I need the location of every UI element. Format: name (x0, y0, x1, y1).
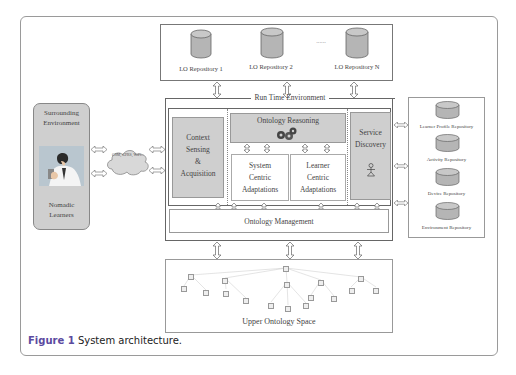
ontology-reasoning-title: Ontology Reasoning (231, 115, 345, 127)
learner-line3: Adaptations (291, 184, 345, 196)
database-icon (435, 101, 460, 119)
double-arrow-icon (264, 144, 270, 153)
ontology-tree (166, 260, 394, 310)
lo-repository-n-label: LO Repository N (329, 63, 385, 70)
service-line2: Discovery (351, 139, 390, 151)
ontology-management-label: Ontology Management (170, 216, 388, 228)
context-line2: Sensing (173, 144, 223, 156)
caption-label: Figure 1 (28, 335, 75, 346)
learners-line2: Learners (34, 210, 89, 220)
system-centric-box: System Centric Adaptations (231, 154, 289, 201)
runtime-environment-title: Run Time Environment (251, 92, 329, 104)
figure-caption: Figure 1 System architecture. (28, 335, 182, 346)
environment-repository-label: Environment Repository (409, 225, 484, 230)
database-icon (435, 134, 460, 152)
double-arrow-icon (213, 242, 221, 259)
ontology-management-box: Ontology Management (169, 209, 389, 233)
activity-repository-label: Activity Repository (409, 157, 484, 162)
side-repositories-box: Learner Profile Repository Activity Repo… (408, 97, 485, 238)
learner-centric-box: Learner Centric Adaptations (290, 154, 346, 201)
gears-icon (275, 127, 301, 141)
ontology-reasoning-box: Ontology Reasoning (230, 113, 346, 143)
service-discovery-box: Service Discovery (350, 112, 391, 200)
database-icon (345, 27, 369, 59)
system-line2: Centric (232, 172, 288, 184)
double-arrow-icon (324, 144, 330, 153)
double-arrow-icon (350, 82, 358, 98)
double-arrow-icon (394, 200, 408, 206)
system-line1: System (232, 160, 288, 172)
agent-icon (366, 163, 376, 177)
database-icon (260, 27, 284, 59)
upper-ontology-box: Upper Ontology Space (165, 259, 393, 333)
learner-image (39, 146, 84, 186)
double-arrow-icon (302, 144, 308, 153)
divider (227, 109, 228, 205)
learner-profile-repository-label: Learner Profile Repository (409, 124, 484, 129)
surrounding-environment-box: Surrounding Environment Nomadic Learners (33, 103, 90, 230)
database-icon (435, 168, 460, 186)
lo-repository-2-label: LO Repository 2 (243, 63, 299, 70)
context-line3: & (173, 156, 223, 168)
surrounding-title1: Surrounding (34, 108, 89, 118)
ellipsis: ...... (311, 37, 331, 44)
runtime-environment-box: Run Time Environment Context Sensing & A… (165, 98, 393, 241)
double-arrow-icon (244, 144, 250, 153)
divider (347, 109, 348, 205)
lo-repository-1-label: LO Repository 1 (173, 65, 229, 72)
device-repository-label: Device Repository (409, 191, 484, 196)
learner-line2: Centric (291, 172, 345, 184)
double-arrow-icon (394, 163, 408, 169)
learners-line1: Nomadic (34, 200, 89, 210)
double-arrow-icon (213, 82, 221, 98)
context-sensing-box: Context Sensing & Acquisition (172, 117, 224, 198)
learner-line1: Learner (291, 160, 345, 172)
lo-repositories-box: LO Repository 1 LO Repository 2 LO Repos… (160, 24, 393, 81)
service-line1: Service (351, 127, 390, 139)
double-arrow-icon (286, 242, 294, 259)
cloud-icon (104, 145, 152, 177)
double-arrow-icon (354, 242, 362, 259)
caption-text: System architecture. (75, 335, 182, 346)
database-icon (435, 202, 460, 220)
surrounding-title2: Environment (34, 118, 89, 128)
context-line1: Context (173, 132, 223, 144)
upper-ontology-title: Upper Ontology Space (166, 316, 392, 328)
double-arrow-icon (394, 122, 408, 128)
database-icon (190, 29, 212, 59)
system-line3: Adaptations (232, 184, 288, 196)
network-label: GSM, GPRS, WiFi... (112, 153, 144, 158)
context-line4: Acquisition (173, 168, 223, 180)
